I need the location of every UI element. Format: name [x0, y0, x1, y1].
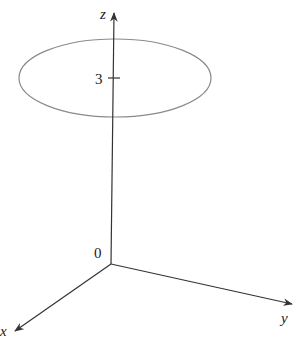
y-axis	[111, 264, 292, 304]
x-axis-label: x	[0, 323, 7, 339]
x-axis	[15, 264, 111, 331]
origin-label: 0	[94, 245, 102, 261]
z-axis-label: z	[99, 6, 106, 22]
y-axis-label: y	[279, 310, 288, 326]
tick-label-3: 3	[95, 71, 103, 87]
coordinate-diagram: z 3 0 x y	[0, 0, 305, 340]
z-axis	[111, 13, 114, 264]
